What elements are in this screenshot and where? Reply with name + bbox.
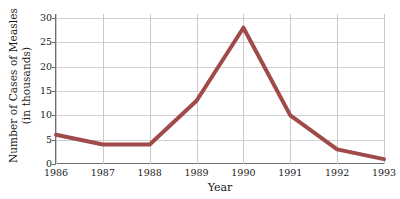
y-axis-tick-mark (52, 140, 56, 141)
gridline-vertical (384, 14, 385, 164)
y-axis-tick-mark (52, 115, 56, 116)
x-axis-tick-label: 1991 (268, 167, 312, 178)
x-axis-tick-label: 1986 (34, 167, 78, 178)
x-axis-tick-label: 1993 (362, 167, 400, 178)
series-line (56, 18, 384, 164)
y-axis-tick-label: 15 (30, 86, 52, 96)
y-axis-title-line1: Number of Cases of Measles (8, 7, 21, 162)
y-axis-tick-mark (52, 91, 56, 92)
x-axis-title: Year (56, 181, 384, 194)
y-axis-tick-mark (52, 164, 56, 165)
series-polyline (56, 28, 384, 159)
x-axis-tick-label: 1988 (128, 167, 172, 178)
y-axis-tick-mark (52, 42, 56, 43)
y-axis-tick-mark (52, 18, 56, 19)
y-axis-tick-mark (52, 67, 56, 68)
y-axis-tick-label: 10 (30, 111, 52, 121)
plot-area (56, 18, 384, 164)
y-axis-tick-label: 25 (30, 38, 52, 48)
x-axis-tick-labels: 19861987198819891990199119921993 (56, 167, 384, 181)
x-axis-tick-label: 1990 (221, 167, 265, 178)
y-axis-tick-label: 5 (30, 135, 52, 145)
x-axis-tick-label: 1992 (315, 167, 359, 178)
x-axis-tick-label: 1987 (81, 167, 125, 178)
x-axis-tick-label: 1989 (175, 167, 219, 178)
y-axis-tick-label: 30 (30, 13, 52, 23)
y-axis-tick-labels: 051015202530 (30, 18, 52, 164)
y-axis-tick-label: 20 (30, 62, 52, 72)
